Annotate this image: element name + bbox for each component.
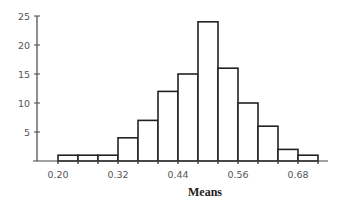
x-tick-label: 0.32 bbox=[107, 169, 128, 180]
histogram-bar bbox=[158, 91, 178, 161]
x-tick-label: 0.56 bbox=[227, 169, 248, 180]
histogram-bar bbox=[278, 149, 298, 161]
histogram-bar bbox=[238, 103, 258, 161]
y-tick-label: 25 bbox=[18, 11, 30, 22]
y-tick-label: 20 bbox=[18, 40, 30, 51]
y-tick-label: 10 bbox=[18, 98, 30, 109]
histogram-bar bbox=[58, 155, 78, 161]
histogram-bar bbox=[178, 74, 198, 161]
histogram-bar bbox=[78, 155, 98, 161]
x-tick-label: 0.44 bbox=[167, 169, 188, 180]
x-tick-label: 0.20 bbox=[47, 169, 68, 180]
histogram-bar bbox=[298, 155, 318, 161]
histogram-bar bbox=[258, 126, 278, 161]
histogram-bar bbox=[198, 22, 218, 161]
x-axis-ticks: 0.200.320.440.560.68 bbox=[47, 161, 318, 180]
x-axis-label: Means bbox=[188, 185, 222, 199]
histogram-bar bbox=[118, 138, 138, 161]
y-tick-label: 15 bbox=[18, 69, 30, 80]
histogram-bars bbox=[58, 22, 318, 161]
histogram-bar bbox=[138, 120, 158, 161]
y-tick-label: 5 bbox=[24, 127, 30, 138]
histogram-chart: 510152025 0.200.320.440.560.68 Means bbox=[0, 0, 342, 208]
histogram-bar bbox=[98, 155, 118, 161]
x-tick-label: 0.68 bbox=[287, 169, 308, 180]
histogram-bar bbox=[218, 68, 238, 161]
